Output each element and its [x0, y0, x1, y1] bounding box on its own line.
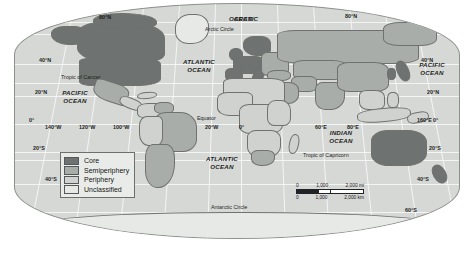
ocean-label-pacific-west: PACIFIC OCEAN: [45, 90, 105, 104]
lon-label-120w: 120°W: [79, 125, 95, 130]
map-ocean-body: ARCTIC ATLANTIC OCEAN PACIFIC OCEAN PACI…: [14, 3, 460, 239]
ocean-label-pacific-east: PACIFIC OCEAN: [405, 62, 459, 76]
ocean-label-atlantic-south: ATLANTIC OCEAN: [191, 156, 253, 170]
lat-label-right-80n: 80°N: [345, 14, 357, 19]
land-china: [337, 62, 389, 92]
scale-km-0: 0: [296, 195, 299, 200]
land-siberia-east: [383, 22, 437, 46]
lat-label-left-0: 0°: [29, 118, 34, 123]
land-south-africa: [251, 150, 275, 166]
lat-label-right-20s: 20°S: [429, 146, 441, 151]
lon-label-60e: 60°E: [315, 125, 327, 130]
legend-swatch-core: [64, 157, 79, 166]
land-philippines: [387, 92, 399, 108]
lat-label-right-0: 0°: [433, 118, 438, 123]
legend-swatch-semiperiphery: [64, 166, 79, 175]
label-equator: Equator: [197, 116, 216, 121]
lon-label-80e: 80°E: [347, 125, 359, 130]
scale-bar-tick: [330, 189, 331, 194]
ocean-label-atlantic-north: ATLANTIC OCEAN: [167, 59, 231, 73]
lon-label-140w: 140°W: [45, 125, 61, 130]
globe-wrapper: ARCTIC ATLANTIC OCEAN PACIFIC OCEAN PACI…: [0, 0, 472, 240]
lat-label-right-20n: 20°N: [427, 90, 439, 95]
scale-km-2000: 2,000 km: [344, 195, 364, 200]
lon-label-20w: 20°W: [205, 125, 218, 130]
lat-label-left-20s: 20°S: [33, 146, 45, 151]
lat-label-left-20n: 20°N: [35, 90, 47, 95]
scale-mi-0: 0: [296, 183, 299, 188]
scale-km-ticks: 0 1,000 2,000 km: [296, 195, 364, 200]
label-tropic-of-cancer: Tropic of Cancer: [61, 75, 101, 80]
legend-item-core[interactable]: Core: [64, 156, 129, 166]
world-map-figure: ARCTIC ATLANTIC OCEAN PACIFIC OCEAN PACI…: [0, 0, 472, 257]
legend-label-periphery: Periphery: [84, 176, 114, 183]
scale-km-1000: 1,000: [315, 195, 327, 200]
legend-label-core: Core: [84, 157, 99, 164]
land-peru-bolivia: [139, 116, 163, 146]
land-united-states: [79, 58, 161, 86]
lat-label-left-40n: 40°N: [39, 58, 51, 63]
lat-label-right-40n: 40°N: [421, 58, 433, 63]
legend-item-semiperiphery[interactable]: Semiperiphery: [64, 166, 129, 176]
map-scale-bar: 0 1,000 2,000 mi 0 1,000 2,000 km: [296, 183, 364, 200]
scale-mi-2000: 2,000 mi: [346, 183, 364, 188]
lat-label-left-40s: 40°S: [45, 177, 57, 182]
scale-bar-graphic: [296, 189, 364, 194]
land-greenland: [175, 14, 209, 44]
label-antarctic-circle: Antarctic Circle: [211, 205, 247, 210]
legend-item-unclassified[interactable]: Unclassified: [64, 185, 129, 195]
land-australia: [371, 130, 427, 166]
legend-label-unclassified: Unclassified: [84, 186, 122, 193]
scale-miles-ticks: 0 1,000 2,000 mi: [296, 183, 364, 188]
land-east-africa: [267, 100, 291, 126]
legend-swatch-periphery: [64, 176, 79, 185]
land-korea: [387, 68, 396, 80]
map-legend[interactable]: Core Semiperiphery Periphery Unclassifie…: [60, 152, 135, 198]
lat-label-left-80n: 80°N: [99, 15, 111, 20]
legend-label-semiperiphery: Semiperiphery: [84, 167, 129, 174]
ocean-label-arctic-line2: OCEAN: [229, 16, 252, 22]
label-tropic-of-capricorn: Tropic of Capricorn: [303, 153, 349, 158]
lon-label-0: 0°: [239, 125, 244, 130]
legend-swatch-unclassified: [64, 185, 79, 194]
lon-label-100w: 100°W: [113, 125, 129, 130]
land-antarctica: [33, 212, 445, 239]
ocean-label-indian: INDIAN OCEAN: [313, 130, 369, 144]
lon-label-160e: 160°E: [417, 118, 432, 123]
lat-label-right-60s: 60°S: [405, 208, 417, 213]
lat-label-right-40s: 40°S: [417, 177, 429, 182]
legend-item-periphery[interactable]: Periphery: [64, 175, 129, 185]
scale-mi-1000: 1,000: [316, 183, 328, 188]
label-arctic-circle: Arctic Circle: [205, 27, 234, 32]
land-southeast-asia: [359, 90, 385, 110]
scale-bar-fill: [297, 190, 319, 193]
